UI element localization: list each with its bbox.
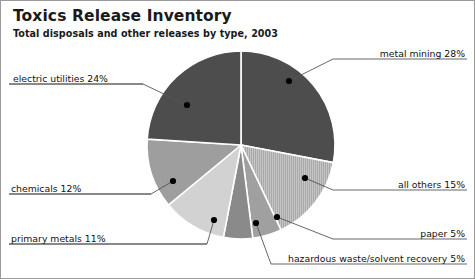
slice-label: electric utilities 24% [13, 73, 108, 84]
pie-slice[interactable] [241, 51, 335, 163]
leader-dot [211, 217, 217, 223]
leader-line [289, 59, 467, 81]
slice-label: hazardous waste/solvent recovery 5% [288, 253, 465, 264]
pie-slice[interactable] [147, 51, 241, 145]
slice-label: chemicals 12% [11, 183, 81, 194]
leader-dot [253, 220, 259, 226]
slice-label: metal mining 28% [380, 48, 465, 59]
chart-panel: Toxics Release Inventory Total disposals… [0, 0, 475, 279]
slice-label: all others 15% [398, 179, 465, 190]
slice-label: primary metals 11% [11, 233, 106, 244]
leader-dot [274, 214, 280, 220]
pie-slices [147, 51, 335, 239]
slice-label: paper 5% [420, 228, 465, 239]
leader-dot [286, 78, 292, 84]
leader-dot [302, 175, 308, 181]
leader-dot [184, 102, 190, 108]
leader-dot [170, 178, 176, 184]
